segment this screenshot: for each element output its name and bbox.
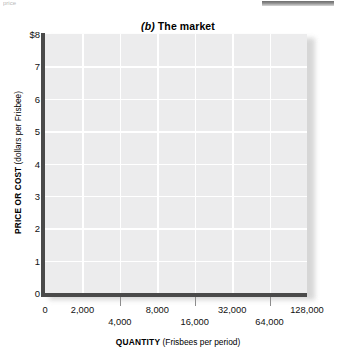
- y-tick-label-7: 7: [35, 62, 40, 72]
- y-tick-label-1: 1: [35, 257, 40, 267]
- y-tick-label-4: 4: [35, 160, 40, 170]
- x-tick-label-64000: 64,000: [240, 317, 300, 328]
- gridline-horizontal-5: [45, 131, 307, 133]
- plot-area: [45, 34, 307, 293]
- figure-title: (b) The market: [46, 20, 310, 32]
- gridline-horizontal-1: [45, 261, 307, 263]
- gridline-horizontal-2: [45, 228, 307, 230]
- x-axis-title: QUANTITY (Frisbees per period): [45, 337, 311, 347]
- x-axis-title-bold: QUANTITY: [116, 337, 160, 347]
- gridline-vertical-2000: [82, 34, 84, 293]
- gridline-vertical-32000: [232, 34, 234, 293]
- gridline-horizontal-4: [45, 164, 307, 166]
- x-tick-mark-64000: [270, 297, 271, 306]
- chart-plot-wrapper: [45, 34, 311, 296]
- x-tick-mark-4000: [120, 297, 121, 306]
- y-axis-line: [41, 33, 45, 297]
- x-tick-label-16000: 16,000: [165, 317, 225, 328]
- y-axis-title: PRICE OR COST (dollars per Frisbee): [14, 73, 23, 253]
- gridline-horizontal-7: [45, 66, 307, 68]
- y-tick-label-5: 5: [35, 127, 40, 137]
- y-tick-label-3: 3: [35, 192, 40, 202]
- gridline-vertical-64000: [270, 34, 272, 293]
- gridline-vertical-16000: [195, 34, 197, 293]
- x-tick-label-8000: 8,000: [127, 305, 187, 316]
- y-tick-label-6: 6: [35, 95, 40, 105]
- x-tick-label-4000: 4,000: [90, 317, 150, 328]
- gridline-horizontal-6: [45, 99, 307, 101]
- x-tick-label-32000: 32,000: [202, 305, 262, 316]
- y-tick-label-8: $8: [29, 30, 40, 40]
- y-tick-label-2: 2: [35, 224, 40, 234]
- y-tick-label-0: 0: [35, 289, 40, 299]
- y-axis-title-units: (dollars per Frisbee): [14, 91, 23, 164]
- panel-letter: (b): [141, 20, 155, 32]
- y-axis-title-bold: PRICE OR COST: [14, 167, 23, 234]
- x-axis-line: [41, 293, 307, 297]
- gridline-horizontal-3: [45, 196, 307, 198]
- panel-title-text: The market: [158, 20, 215, 32]
- page-artifact-top-left: price: [3, 0, 29, 7]
- x-tick-label-2000: 2,000: [52, 305, 112, 316]
- x-tick-label-128000: 128,000: [277, 305, 337, 316]
- x-axis-title-units: (Frisbees per period): [163, 337, 241, 347]
- page-artifact-top-right-rule: [262, 1, 334, 6]
- gridline-vertical-8000: [157, 34, 159, 293]
- gridline-vertical-4000: [120, 34, 122, 293]
- x-tick-mark-16000: [195, 297, 196, 306]
